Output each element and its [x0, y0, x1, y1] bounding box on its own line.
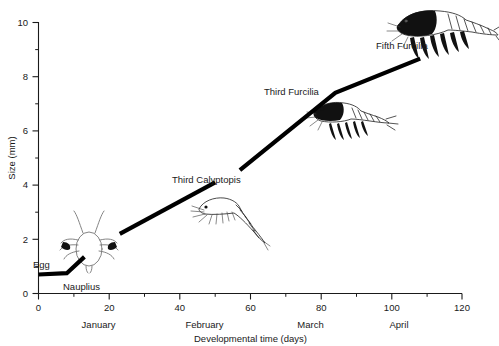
growth-chart-svg: 0 2 4 6 8 10 0 20 40 60 80 100 120 Janua… [0, 0, 499, 346]
month-label-march: March [297, 319, 323, 330]
y-axis [33, 22, 39, 294]
y-tick-label-4: 4 [23, 179, 28, 190]
x-tick-label-60: 60 [245, 302, 256, 313]
stage-label-third-calyptopis: Third Calyptopis [172, 174, 241, 185]
y-tick-label-10: 10 [17, 17, 28, 28]
stage-label-egg: Egg [33, 259, 50, 270]
x-tick-label-40: 40 [175, 302, 186, 313]
month-label-january: January [82, 319, 116, 330]
third-calyptopis-krill-illustration [191, 198, 270, 250]
y-tick-label-2: 2 [23, 234, 28, 245]
stage-label-fifth-furcilia: Fifth Furcilia [376, 40, 428, 51]
nauplius-krill-illustration [60, 211, 118, 273]
y-tick-label-6: 6 [23, 125, 28, 136]
krill-growth-figure: 0 2 4 6 8 10 0 20 40 60 80 100 120 Janua… [0, 0, 499, 346]
x-axis [39, 294, 463, 300]
fifth-furcilia-krill-illustration [387, 11, 499, 59]
y-tick-label-0: 0 [23, 288, 28, 299]
x-tick-label-80: 80 [316, 302, 327, 313]
month-label-april: April [389, 319, 408, 330]
x-tick-label-100: 100 [384, 302, 400, 313]
x-tick-label-20: 20 [104, 302, 115, 313]
growth-curve [39, 59, 421, 275]
x-tick-label-120: 120 [454, 302, 470, 313]
month-label-february: February [185, 319, 223, 330]
x-tick-label-0: 0 [36, 302, 41, 313]
y-tick-label-8: 8 [23, 71, 28, 82]
x-axis-title: Developmental time (days) [194, 333, 307, 344]
stage-label-nauplius: Nauplius [63, 281, 100, 292]
y-axis-title: Size (mm) [6, 136, 17, 179]
stage-label-third-furcilia: Third Furcilia [264, 86, 320, 97]
